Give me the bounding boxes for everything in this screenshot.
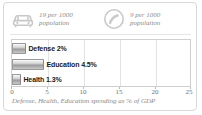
bar-row: Health 1.3% (12, 73, 62, 85)
gridline-15 (120, 40, 121, 86)
bar-defense (12, 43, 26, 54)
bar-education (12, 59, 44, 70)
stat-vehicles: 19 per 1000 population (11, 6, 73, 32)
infographic-card: 19 per 1000 population 9 per 1000 popula… (3, 2, 197, 111)
header-divider (10, 34, 191, 35)
tick-label-10: 10 (80, 88, 87, 96)
stat-vehicles-text: 19 per 1000 population (39, 11, 73, 28)
stat-telephones-value: 9 per 1000 (130, 11, 160, 19)
telephone-circle-icon (102, 7, 126, 31)
bar-health (12, 74, 21, 85)
stat-telephones: 9 per 1000 population (102, 6, 160, 32)
bar-chart: Defense 2%Education 4.5%Health 1.3% (11, 39, 191, 87)
stat-vehicles-value: 19 per 1000 (39, 11, 73, 19)
stats-header: 19 per 1000 population 9 per 1000 popula… (4, 3, 196, 33)
bar-label-health: Health 1.3% (23, 76, 61, 83)
tick-label-5: 5 (45, 88, 49, 96)
stat-vehicles-unit: population (39, 19, 73, 28)
x-axis: 0510152025 (11, 87, 191, 96)
tick-label-0: 0 (10, 88, 14, 96)
car-icon (11, 7, 35, 31)
plot-area: Defense 2%Education 4.5%Health 1.3% (11, 39, 191, 87)
gridline-20 (156, 40, 157, 86)
stat-telephones-text: 9 per 1000 population (130, 11, 160, 28)
tick-label-20: 20 (152, 88, 159, 96)
tick-label-15: 15 (116, 88, 123, 96)
bar-label-defense: Defense 2% (28, 45, 66, 52)
stat-telephones-unit: population (130, 19, 160, 28)
bar-label-education: Education 4.5% (46, 61, 96, 68)
chart-caption: Defense, Health, Education spending as %… (12, 97, 198, 105)
bar-row: Education 4.5% (12, 58, 97, 70)
bar-row: Defense 2% (12, 42, 67, 54)
tick-label-25: 25 (186, 88, 193, 96)
